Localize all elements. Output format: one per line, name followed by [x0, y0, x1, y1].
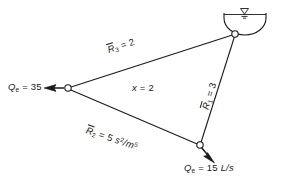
outflow-arrow-left-head-icon [44, 85, 56, 92]
label-outflow-left: Qe = 35 [8, 82, 42, 93]
left-junction-node [65, 85, 71, 91]
equals-sign: = [195, 162, 206, 173]
q-value: 15 [207, 162, 218, 173]
pipe-r3-line [68, 35, 234, 89]
q-value: 35 [31, 81, 42, 92]
water-surface-triangle-icon [241, 9, 249, 15]
pipe-network-diagram: Qe = 35 Qe = 15 L/s R3 = 2 R2 = 5 s2/m5 … [0, 0, 283, 183]
label-outflow-bottom: Qe = 15 L/s [184, 163, 234, 174]
q-units: L/s [221, 162, 234, 173]
reservoir-symbol [224, 9, 266, 36]
reservoir-outlet-node [232, 31, 238, 37]
x-value: 2 [148, 82, 153, 93]
q-symbol: Q [184, 162, 192, 173]
equals-sign: = [19, 81, 30, 92]
r-symbol: R [106, 43, 116, 54]
label-unknown-x: x = 2 [132, 83, 154, 93]
equals-sign: = [137, 82, 148, 93]
q-symbol: Q [8, 81, 16, 92]
